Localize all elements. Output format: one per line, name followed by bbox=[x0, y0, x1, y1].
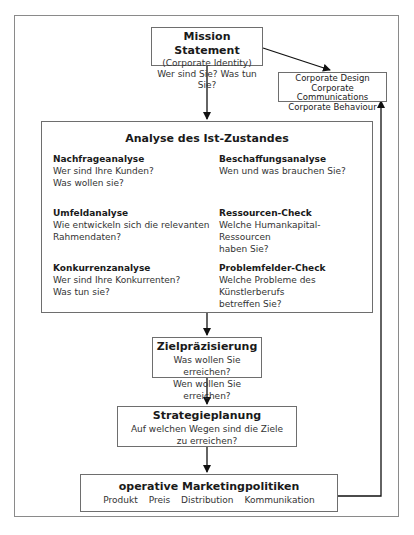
mission-line: (Corporate Identity) bbox=[152, 58, 262, 69]
cell-heading: Konkurrenzanalyse bbox=[53, 262, 180, 274]
ziel-title: Zielpräzisierung bbox=[153, 340, 261, 354]
mission-line: Wer sind Sie? Was tun Sie? bbox=[152, 69, 262, 91]
mission-statement-box: Mission Statement (Corporate Identity) W… bbox=[151, 27, 263, 66]
corporate-box: Corporate Design Corporate Communication… bbox=[278, 72, 387, 102]
cell-line: betreffen Sie? bbox=[219, 298, 372, 310]
cell-heading: Problemfelder-Check bbox=[219, 262, 372, 274]
analysis-cell-problemfelder: Problemfelder-Check Welche Probleme des … bbox=[219, 262, 372, 310]
strategieplanung-box: Strategieplanung Auf welchen Wegen sind … bbox=[117, 406, 297, 447]
cell-line: Wer sind Ihre Konkurrenten? bbox=[53, 274, 180, 286]
analysis-cell-ressourcen: Ressourcen-Check Welche Humankapital-Res… bbox=[219, 207, 372, 255]
strategie-line: Auf welchen Wegen sind die Ziele bbox=[118, 423, 296, 435]
cell-line: Rahmendaten? bbox=[53, 231, 209, 243]
cell-heading: Beschaffungsanalyse bbox=[219, 153, 346, 165]
cell-line: Was wollen sie? bbox=[53, 177, 154, 189]
analysis-box: Analyse des Ist-Zustandes Nachfrageanaly… bbox=[41, 121, 373, 313]
corporate-line: Corporate Behaviour bbox=[279, 103, 386, 113]
cell-line: Was tun sie? bbox=[53, 286, 180, 298]
cell-line: Welche Probleme des Künstlerberufs bbox=[219, 274, 372, 298]
cell-heading: Umfeldanalyse bbox=[53, 207, 209, 219]
operative-title: operative Marketingpolitiken bbox=[81, 480, 337, 494]
operative-item: Produkt bbox=[103, 495, 137, 505]
cell-line: Welche Humankapital-Ressourcen bbox=[219, 219, 372, 243]
cell-line: Wie entwickeln sich die relevanten bbox=[53, 219, 209, 231]
operative-item: Distribution bbox=[181, 495, 234, 505]
corporate-line: Corporate Communications bbox=[279, 84, 386, 103]
analysis-cell-nachfrage: Nachfrageanalyse Wer sind Ihre Kunden? W… bbox=[53, 153, 154, 189]
analysis-cell-beschaffung: Beschaffungsanalyse Wen und was brauchen… bbox=[219, 153, 346, 177]
ziel-line: Wen wollen Sie erreichen? bbox=[153, 378, 261, 402]
operative-item: Kommunikation bbox=[244, 495, 314, 505]
strategie-title: Strategieplanung bbox=[118, 409, 296, 423]
analysis-title: Analyse des Ist-Zustandes bbox=[42, 132, 372, 146]
mission-title: Mission Statement bbox=[152, 30, 262, 58]
operative-items: Produkt Preis Distribution Kommunikation bbox=[81, 494, 337, 506]
operative-marketing-box: operative Marketingpolitiken Produkt Pre… bbox=[80, 474, 338, 512]
cell-line: Wen und was brauchen Sie? bbox=[219, 165, 346, 177]
cell-heading: Ressourcen-Check bbox=[219, 207, 372, 219]
operative-item: Preis bbox=[149, 495, 171, 505]
strategie-line: zu erreichen? bbox=[118, 435, 296, 447]
zielpraezisierung-box: Zielpräzisierung Was wollen Sie erreiche… bbox=[152, 337, 262, 378]
cell-line: haben Sie? bbox=[219, 243, 372, 255]
ziel-line: Was wollen Sie erreichen? bbox=[153, 354, 261, 378]
analysis-cell-umfeld: Umfeldanalyse Wie entwickeln sich die re… bbox=[53, 207, 209, 243]
cell-line: Wer sind Ihre Kunden? bbox=[53, 165, 154, 177]
analysis-cell-konkurrenz: Konkurrenzanalyse Wer sind Ihre Konkurre… bbox=[53, 262, 180, 298]
cell-heading: Nachfrageanalyse bbox=[53, 153, 154, 165]
